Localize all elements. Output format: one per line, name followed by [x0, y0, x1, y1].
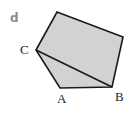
vertex-label-c: C — [20, 43, 29, 56]
pentagon-shape — [36, 12, 123, 88]
geometry-figure: d C A B — [0, 0, 138, 114]
part-label-d: d — [10, 12, 19, 24]
vertex-label-b: B — [115, 90, 124, 103]
vertex-label-a: A — [57, 92, 66, 105]
